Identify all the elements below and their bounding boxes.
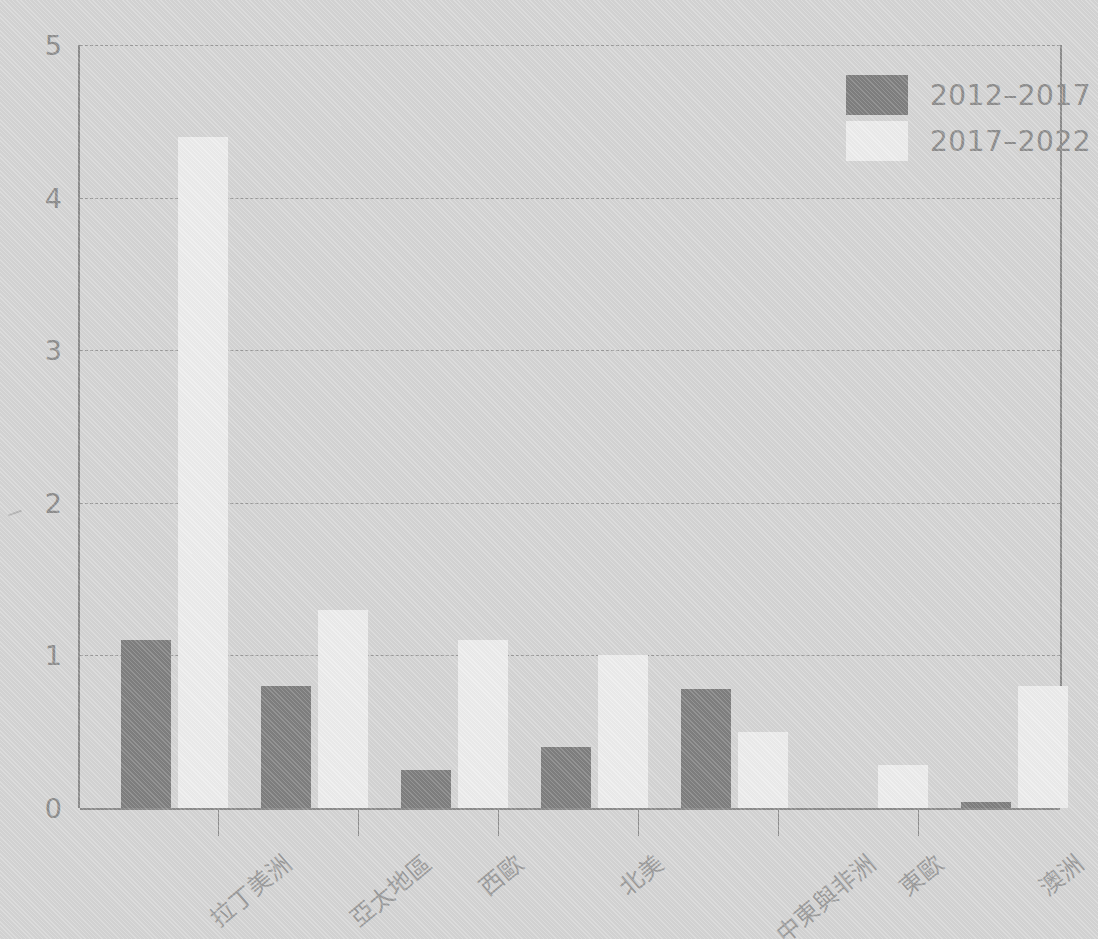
bar-0 [121,640,171,808]
y-tick-label: 3 [28,335,62,366]
x-axis-label: 東歐 [890,845,949,903]
bar-group [360,45,500,808]
bar-1 [598,655,648,808]
x-axis-label: 亞太地區 [341,845,437,934]
x-axis-label: 澳洲 [1030,845,1089,903]
bar-group [500,45,640,808]
legend-swatch-icon [846,75,908,115]
chart-legend: 2012–20172017–2022 [846,72,1091,164]
bar-1 [738,732,788,808]
x-axis-label: 北美 [610,845,669,903]
gridline-5 [80,45,1060,46]
x-tick [918,810,919,836]
x-tick [498,810,499,836]
legend-label: 2012–2017 [930,79,1091,112]
bar-1 [318,610,368,808]
y-tick-label: 1 [28,640,62,671]
x-tick [218,810,219,836]
bar-group [220,45,360,808]
x-axis-label: 中東與非洲 [767,845,881,939]
legend-swatch-icon [846,121,908,161]
legend-item[interactable]: 2017–2022 [846,118,1091,164]
bar-0 [681,689,731,808]
x-axis-label: 拉丁美洲 [201,845,297,934]
y-tick-label: 0 [28,793,62,824]
bar-1 [458,640,508,808]
bar-0 [261,686,311,808]
x-tick [778,810,779,836]
legend-item[interactable]: 2012–2017 [846,72,1091,118]
axis-baseline [80,808,1060,810]
y-tick-label: 5 [28,30,62,61]
x-tick [358,810,359,836]
stray-tick-mark [8,510,22,517]
bar-chart: 012345 拉丁美洲亞太地區西歐北美中東與非洲東歐澳洲 2012–201720… [0,0,1098,939]
x-tick [638,810,639,836]
bar-0 [541,747,591,808]
y-tick-label: 4 [28,182,62,213]
bar-group [80,45,220,808]
bar-0 [401,770,451,808]
bar-group [640,45,780,808]
bar-1 [178,137,228,808]
y-tick-label: 2 [28,487,62,518]
bar-1 [878,765,928,808]
bar-1 [1018,686,1068,808]
legend-label: 2017–2022 [930,125,1091,158]
x-axis-label: 西歐 [470,845,529,903]
